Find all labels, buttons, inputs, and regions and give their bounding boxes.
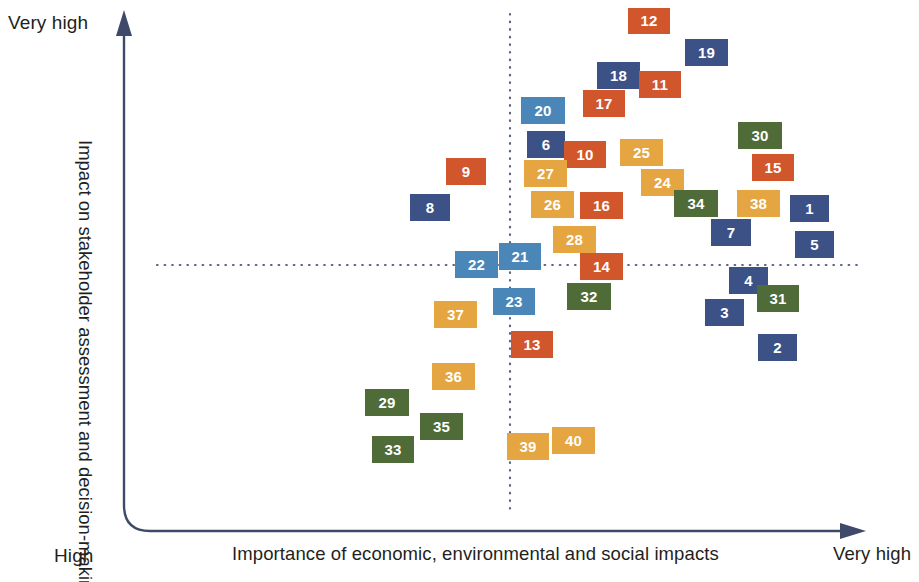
topic-label-23[interactable]: 23 [493, 288, 535, 315]
topic-label-38[interactable]: 38 [737, 190, 780, 217]
materiality-matrix-chart: Very high High Impact on stakeholder ass… [0, 0, 919, 582]
topic-label-1[interactable]: 1 [790, 195, 829, 222]
topic-label-31[interactable]: 31 [757, 285, 799, 312]
topic-label-14[interactable]: 14 [580, 253, 623, 280]
topic-label-21[interactable]: 21 [499, 243, 541, 270]
topic-label-25[interactable]: 25 [620, 139, 663, 166]
topic-label-15[interactable]: 15 [752, 154, 794, 181]
y-axis-title: Impact on stakeholder assessment and dec… [74, 140, 96, 560]
topic-label-10[interactable]: 10 [564, 141, 606, 168]
topic-label-34[interactable]: 34 [674, 190, 718, 217]
topic-label-30[interactable]: 30 [738, 122, 782, 149]
topic-label-32[interactable]: 32 [567, 283, 611, 310]
topic-label-40[interactable]: 40 [552, 427, 595, 454]
topic-label-22[interactable]: 22 [455, 251, 498, 278]
topic-label-3[interactable]: 3 [705, 299, 744, 326]
x-axis-arrowhead [840, 523, 866, 539]
topic-label-27[interactable]: 27 [524, 160, 567, 187]
topic-label-29[interactable]: 29 [365, 389, 409, 416]
topic-label-35[interactable]: 35 [420, 413, 463, 440]
topic-label-12[interactable]: 12 [628, 8, 670, 34]
topic-label-28[interactable]: 28 [553, 226, 596, 253]
x-axis-title: Importance of economic, environmental an… [232, 543, 719, 565]
y-axis-top-label: Very high [8, 12, 88, 34]
topic-label-5[interactable]: 5 [795, 231, 834, 258]
x-axis-right-label: Very high [833, 543, 911, 565]
topic-label-37[interactable]: 37 [434, 301, 477, 328]
topic-label-11[interactable]: 11 [639, 71, 681, 98]
topic-label-19[interactable]: 19 [685, 39, 728, 66]
topic-label-20[interactable]: 20 [521, 97, 565, 124]
topic-label-18[interactable]: 18 [597, 62, 640, 89]
topic-label-13[interactable]: 13 [511, 331, 553, 358]
topic-label-26[interactable]: 26 [531, 191, 574, 218]
topic-label-6[interactable]: 6 [527, 131, 565, 158]
topic-label-33[interactable]: 33 [372, 436, 414, 463]
topic-label-2[interactable]: 2 [758, 334, 797, 361]
topic-label-9[interactable]: 9 [446, 158, 486, 185]
y-axis-arrowhead [116, 10, 132, 36]
topic-label-17[interactable]: 17 [583, 90, 625, 117]
topic-label-39[interactable]: 39 [507, 433, 549, 460]
topic-label-16[interactable]: 16 [580, 192, 623, 219]
topic-label-8[interactable]: 8 [410, 194, 450, 221]
topic-label-36[interactable]: 36 [432, 363, 475, 390]
topic-label-7[interactable]: 7 [711, 219, 751, 246]
